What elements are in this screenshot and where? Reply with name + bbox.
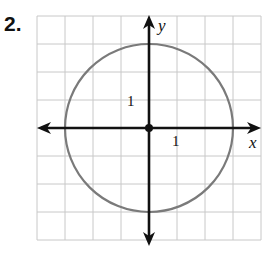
x-axis-label: x (248, 133, 257, 152)
origin-point (145, 124, 153, 132)
y-axis-label: y (156, 16, 166, 35)
x-tick-label: 1 (172, 133, 180, 149)
y-tick-label: 1 (127, 93, 135, 109)
coordinate-plane: x y 1 1 (0, 0, 269, 256)
